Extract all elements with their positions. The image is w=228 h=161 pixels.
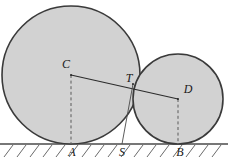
- hatch-tick: [108, 145, 117, 157]
- hatch-tick: [147, 145, 156, 157]
- hatch-tick: [134, 145, 143, 157]
- point-marker-d: [177, 98, 179, 100]
- geometry-figure: CTDASB: [0, 0, 228, 161]
- hatch-tick: [30, 145, 39, 157]
- hatch-tick: [82, 145, 91, 157]
- hatch-tick: [43, 145, 52, 157]
- ground-hatching: [4, 145, 221, 157]
- hatch-tick: [160, 145, 169, 157]
- hatch-tick: [56, 145, 65, 157]
- point-marker-t: [132, 83, 134, 85]
- tangent-circles-diagram: CTDASB: [0, 0, 228, 161]
- point-label-s: S: [119, 145, 125, 159]
- hatch-tick: [212, 145, 221, 157]
- hatch-tick: [17, 145, 26, 157]
- circles-group: [2, 6, 223, 144]
- hatch-tick: [95, 145, 104, 157]
- hatch-tick: [186, 145, 195, 157]
- hatch-tick: [199, 145, 208, 157]
- point-label-a: A: [67, 145, 76, 159]
- hatch-tick: [4, 145, 13, 157]
- point-marker-c: [70, 74, 72, 76]
- point-label-d: D: [183, 82, 193, 96]
- point-label-c: C: [62, 57, 71, 71]
- point-label-b: B: [176, 145, 184, 159]
